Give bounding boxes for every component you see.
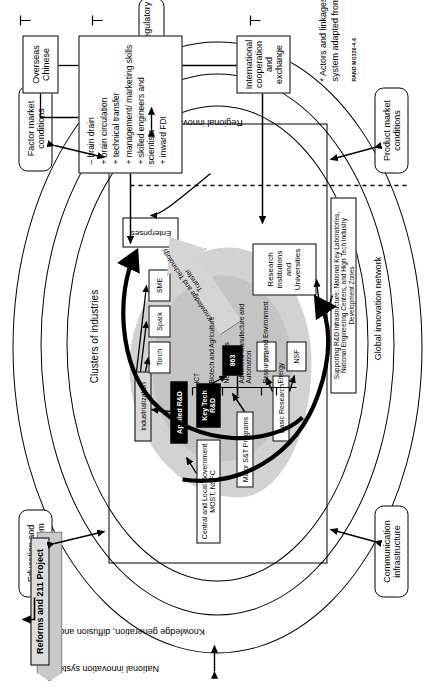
rand-document-code: RAND MG320-4.6 [350,0,356,81]
diagram-landscape-layer: National innovation system* Knowledge ge… [0,0,432,693]
connector-layer [0,0,432,693]
figure-canvas: National innovation system* Knowledge ge… [0,0,432,693]
figure-caption-note: * Actors and linkages in the innovation … [316,0,340,81]
